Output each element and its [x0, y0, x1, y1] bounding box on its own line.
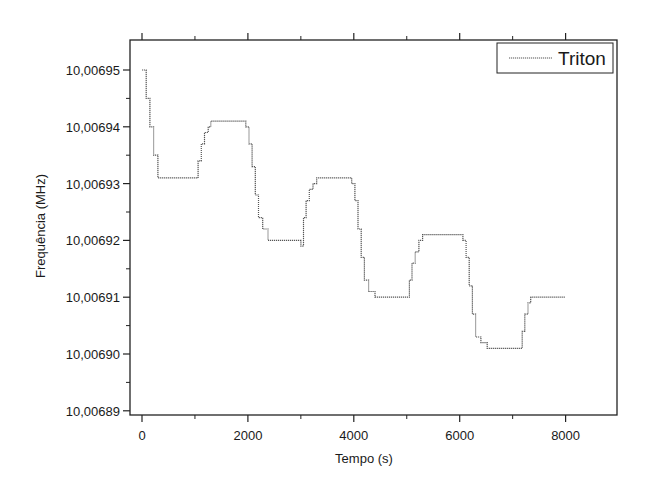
legend-label: Triton [558, 48, 606, 69]
y-axis-label: Frequência (MHz) [33, 174, 48, 278]
chart-container: 0200040006000800010,0069510,0069410,0069… [0, 0, 647, 491]
x-tick-label: 2000 [233, 428, 262, 443]
y-tick-label: 10,00694 [66, 120, 120, 135]
y-tick-label: 10,00692 [66, 233, 120, 248]
y-tick-label: 10,00693 [66, 177, 120, 192]
legend: Triton [497, 43, 613, 73]
y-tick-label: 10,00691 [66, 290, 120, 305]
x-tick-label: 8000 [551, 428, 580, 443]
x-axis-label: Tempo (s) [335, 451, 393, 466]
x-tick-label: 0 [138, 428, 145, 443]
x-tick-label: 6000 [445, 428, 474, 443]
x-tick-label: 4000 [339, 428, 368, 443]
y-tick-label: 10,00690 [66, 347, 120, 362]
chart-svg: 0200040006000800010,0069510,0069410,0069… [0, 0, 647, 491]
y-tick-label: 10,00695 [66, 63, 120, 78]
y-tick-label: 10,00689 [66, 404, 120, 419]
